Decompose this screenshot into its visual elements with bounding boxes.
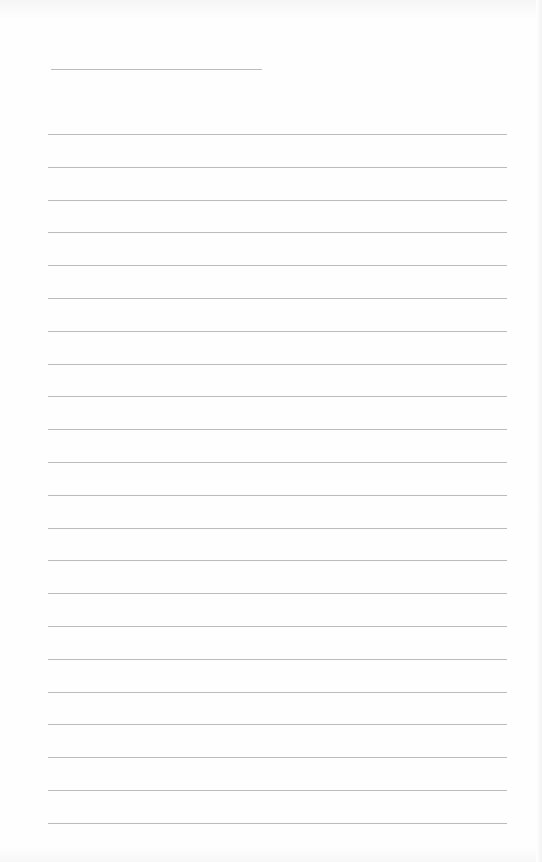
ruled-line: [48, 823, 507, 824]
bottom-bleed-through: [0, 844, 542, 862]
ruled-line: [48, 593, 507, 594]
ruled-line: [48, 134, 507, 135]
ruled-line: [48, 757, 507, 758]
ruled-line: [48, 790, 507, 791]
ruled-line: [48, 626, 507, 627]
ruled-line: [48, 396, 507, 397]
ruled-line: [48, 331, 507, 332]
ruled-line: [48, 692, 507, 693]
ruled-line: [48, 560, 507, 561]
ruled-line: [48, 265, 507, 266]
lined-paper-page: [0, 0, 542, 862]
ruled-line: [48, 167, 507, 168]
header-rule: [51, 69, 262, 70]
ruled-line: [48, 200, 507, 201]
ruled-line: [48, 298, 507, 299]
ruled-line: [48, 659, 507, 660]
ruled-line: [48, 462, 507, 463]
ruled-line: [48, 364, 507, 365]
ruled-line: [48, 495, 507, 496]
ruled-line: [48, 429, 507, 430]
top-bleed-through: [0, 0, 542, 22]
page-edge-shadow: [536, 0, 542, 862]
ruled-line: [48, 232, 507, 233]
ruled-line: [48, 528, 507, 529]
ruled-line: [48, 724, 507, 725]
